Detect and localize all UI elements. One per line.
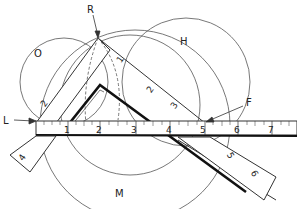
geometry-diagram: 1 2 3 4 5 6 7 4 5 6 2 1 2 3 R L F O H M	[0, 0, 297, 209]
ruler: 1 2 3 4 5 6 7	[36, 121, 297, 136]
circle-m	[40, 30, 230, 209]
region-label-o: O	[34, 48, 42, 59]
ruler-number-1: 1	[64, 125, 70, 135]
right-square-end: 5 6	[178, 137, 276, 200]
region-label-h: H	[180, 36, 188, 47]
ruler-number-6: 6	[234, 125, 240, 135]
region-label-m: M	[115, 188, 124, 199]
ruler-number-2: 2	[96, 125, 102, 135]
ruler-number-5: 5	[200, 125, 206, 135]
triangle-square	[68, 85, 246, 192]
right-square-number-2: 2	[144, 84, 155, 94]
ruler-number-4: 4	[166, 125, 172, 135]
ruler-number-3: 3	[131, 125, 137, 135]
point-label-l: L	[3, 115, 9, 126]
point-label-f: F	[246, 97, 252, 108]
ruler-number-7: 7	[268, 125, 274, 135]
point-label-r: R	[87, 4, 94, 15]
circle-inner	[60, 35, 200, 175]
left-square-end: 4	[10, 136, 56, 172]
